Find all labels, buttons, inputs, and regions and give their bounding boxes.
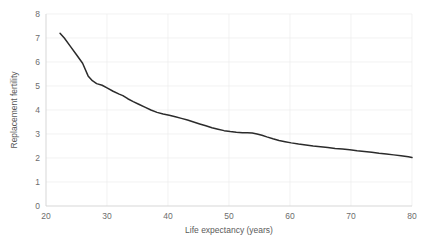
y-tick-label: 4 [35,105,40,115]
y-axis-tick-labels: 012345678 [35,9,40,211]
y-tick-label: 5 [35,81,40,91]
chart-canvas: 20304050607080 012345678 Life expectancy… [0,0,429,247]
y-tick-label: 0 [35,201,40,211]
y-tick-label: 3 [35,129,40,139]
x-tick-label: 60 [285,211,295,221]
y-tick-label: 2 [35,153,40,163]
y-axis-title: Replacement fertility [9,71,19,149]
x-axis-title: Life expectancy (years) [185,225,273,235]
x-tick-label: 30 [102,211,112,221]
x-tick-label: 50 [224,211,234,221]
x-tick-label: 70 [346,211,356,221]
x-tick-label: 40 [163,211,173,221]
y-tick-label: 6 [35,57,40,67]
y-tick-label: 1 [35,177,40,187]
x-tick-label: 80 [407,211,417,221]
y-tick-label: 7 [35,33,40,43]
x-tick-label: 20 [41,211,51,221]
replacement-fertility-chart: 20304050607080 012345678 Life expectancy… [0,0,429,247]
y-tick-label: 8 [35,9,40,19]
